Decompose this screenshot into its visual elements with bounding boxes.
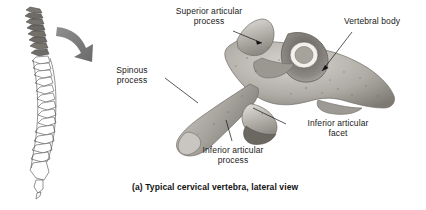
label-vertebral-body: Vertebral body <box>324 16 420 26</box>
leader-spinous-process <box>165 78 198 103</box>
label-inferior-articular-process: Inferior articular process <box>183 145 283 165</box>
spine-lumbar-region <box>31 125 55 162</box>
anatomy-figure: Superior articular process Vertebral bod… <box>0 0 426 210</box>
spine-thoracic-region <box>32 56 56 126</box>
label-spinous-process: Spinous process <box>100 65 164 85</box>
leader-inferior-articular-process <box>226 120 232 141</box>
spine-illustration <box>0 0 426 210</box>
leader-vertebral-body <box>322 32 352 71</box>
label-inferior-articular-facet: Inferior articular facet <box>288 118 388 138</box>
figure-caption: (a) Typical cervical vertebra, lateral v… <box>132 182 298 192</box>
spine-anterior-contour <box>31 58 56 168</box>
label-superior-articular-process: Superior articular process <box>150 6 268 26</box>
leader-superior-articular-process <box>233 31 262 43</box>
spine-cervical-region <box>25 7 49 56</box>
spine-sacrum-region <box>30 161 49 199</box>
zoom-indicator-arrow <box>56 27 93 62</box>
leader-inferior-articular-facet <box>253 108 286 124</box>
